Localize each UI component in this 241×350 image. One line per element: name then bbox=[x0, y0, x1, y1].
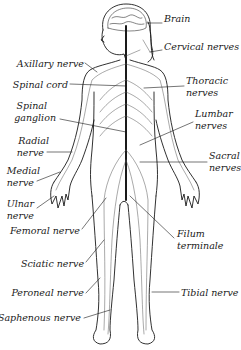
label-sacral-nerves-line1: Sacral bbox=[209, 150, 240, 161]
label-spinal-cord: Spinal cord bbox=[13, 79, 68, 90]
label-ulnar-nerve-line2: nerve bbox=[7, 210, 34, 221]
label-ulnar-nerve-line1: Ulnar bbox=[7, 198, 34, 209]
label-thoracic-nerves-line2: nerves bbox=[186, 87, 218, 98]
label-lumbar-nerves-line1: Lumbar bbox=[195, 108, 233, 119]
label-filum-terminale-line1: Filum bbox=[177, 228, 205, 239]
label-spinal-ganglion-line2: ganglion bbox=[14, 112, 56, 123]
brain-illustration bbox=[108, 8, 147, 31]
label-brain: Brain bbox=[164, 13, 190, 24]
label-medial-nerve-line2: nerve bbox=[7, 177, 34, 188]
label-femoral-nerve: Femoral nerve bbox=[10, 225, 80, 236]
label-sacral-nerves-line2: nerves bbox=[209, 162, 241, 173]
label-spinal-ganglion-line1: Spinal bbox=[17, 100, 47, 111]
label-saphenous-nerve: Saphenous nerve bbox=[0, 312, 81, 323]
label-tibial-nerve: Tibial nerve bbox=[181, 287, 239, 298]
nervous-system-diagram: Brain Cervical nerves Thoracic nerves Lu… bbox=[0, 0, 241, 350]
label-medial-nerve-line1: Medial bbox=[7, 165, 40, 176]
label-axillary-nerve: Axillary nerve bbox=[17, 58, 84, 69]
label-peroneal-nerve: Peroneal nerve bbox=[11, 287, 84, 298]
label-radial-nerve-line1: Radial bbox=[18, 135, 49, 146]
label-cervical-nerves: Cervical nerves bbox=[164, 41, 239, 52]
label-thoracic-nerves-line1: Thoracic bbox=[186, 75, 228, 86]
label-radial-nerve-line2: nerve bbox=[17, 147, 44, 158]
label-filum-terminale-line2: terminale bbox=[177, 240, 223, 251]
label-sciatic-nerve: Sciatic nerve bbox=[21, 258, 84, 269]
label-lumbar-nerves-line2: nerves bbox=[195, 120, 227, 131]
